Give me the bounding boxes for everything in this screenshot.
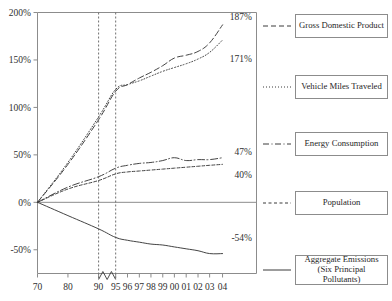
- y-tick-label: 0%: [18, 198, 31, 208]
- legend-item-vehicle-miles-traveled[interactable]: Vehicle Miles Traveled: [295, 75, 388, 99]
- series-line: [38, 40, 223, 202]
- x-tick-label: 97: [135, 282, 145, 292]
- x-tick-label: 70: [33, 282, 43, 292]
- legend-label-gdp: Gross Domestic Product: [299, 21, 384, 31]
- x-tick-label: 98: [146, 282, 156, 292]
- x-tick-label: 96: [123, 282, 133, 292]
- y-tick-label: 100%: [9, 103, 31, 113]
- y-tick-label: 200%: [9, 8, 31, 18]
- x-tick-label: 01: [181, 282, 191, 292]
- y-tick-label: 50%: [14, 150, 32, 160]
- legend-item-population[interactable]: Population: [295, 191, 388, 215]
- series-end-label: -54%: [231, 233, 252, 243]
- y-tick-label: -50%: [10, 245, 31, 255]
- series-line: [38, 158, 223, 203]
- legend-label-vmt: Vehicle Miles Traveled: [301, 82, 382, 92]
- x-tick-label: 99: [158, 282, 168, 292]
- series-line: [38, 25, 223, 202]
- legend-item-energy-consumption[interactable]: Energy Consumption: [295, 132, 388, 156]
- series-end-label: 40%: [235, 170, 253, 180]
- series-end-label: 47%: [235, 147, 253, 157]
- x-tick-label: 04: [218, 282, 228, 292]
- x-tick-label: 03: [205, 282, 215, 292]
- series-end-label: 171%: [230, 54, 252, 64]
- series-line: [38, 202, 223, 254]
- x-tick-label: 00: [170, 282, 180, 292]
- axis-break-marker: [99, 272, 116, 280]
- plot-frame: [38, 13, 257, 274]
- x-tick-label: 90: [94, 282, 104, 292]
- series-line: [38, 164, 223, 202]
- legend-label-emissions-line2: (Six Principal Pollutants): [299, 265, 384, 284]
- x-tick-label: 02: [193, 282, 203, 292]
- legend-item-aggregate-emissions[interactable]: Aggregate Emissions (Six Principal Pollu…: [295, 255, 388, 285]
- x-tick-label: 95: [111, 282, 121, 292]
- legend-item-gross-domestic-product[interactable]: Gross Domestic Product: [295, 14, 388, 38]
- series-end-label: 187%: [230, 12, 252, 22]
- x-tick-label: 80: [63, 282, 73, 292]
- legend-label-population: Population: [323, 198, 361, 208]
- y-tick-label: 150%: [9, 55, 31, 65]
- legend-label-energy: Energy Consumption: [305, 139, 379, 149]
- chart-container: -50%0%50%100%150%200%7080909596979899000…: [0, 0, 392, 301]
